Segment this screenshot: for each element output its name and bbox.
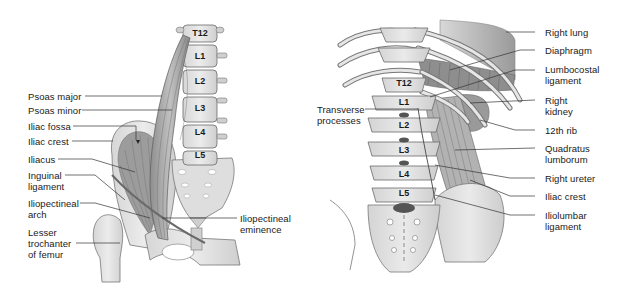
label-inguinal-ligament: Inguinal ligament	[28, 170, 64, 192]
label-12th-rib: 12th rib	[545, 125, 577, 136]
label-diaphragm: Diaphragm	[545, 45, 592, 56]
label-iliopectineal-arch: Iliopectineal arch	[28, 198, 79, 220]
vertebra-label-l4-right: L4	[399, 169, 410, 179]
label-transverse-processes: Transverse processes	[317, 104, 365, 126]
label-psoas-minor: Psoas minor	[28, 105, 81, 116]
vertebra-label-l5-right: L5	[399, 188, 410, 198]
label-iliac-fossa: Iliac fossa	[28, 121, 71, 132]
vertebra-label-t12: T12	[192, 28, 208, 38]
label-right-lung: Right lung	[545, 27, 588, 38]
label-iliac-crest: Iliac crest	[28, 136, 69, 147]
vertebra-label-l1: L1	[195, 51, 206, 61]
vertebra-label-l3-right: L3	[399, 145, 410, 155]
label-iliopectineal-eminence: Iliopectineal eminence	[240, 213, 291, 235]
label-iliac-crest-right: Iliac crest	[545, 191, 586, 202]
vertebra-label-l2: L2	[195, 76, 206, 86]
label-quadratus-lumborum: Quadratus lumborum	[545, 143, 590, 165]
label-lesser-trochanter: Lesser trochanter of femur	[28, 227, 71, 260]
vertebra-label-l3: L3	[195, 103, 206, 113]
vertebra-label-l5: L5	[195, 150, 206, 160]
left-anatomy-panel: T12 L1 L2 L3 L4 L5 Psoas major Psoas min…	[0, 0, 310, 295]
label-psoas-major: Psoas major	[28, 91, 81, 102]
label-iliolumbar-ligament: Iliolumbar ligament	[545, 210, 587, 232]
label-lumbocostal-ligament: Lumbocostal ligament	[545, 64, 599, 86]
vertebra-label-l2-right: L2	[399, 120, 410, 130]
label-right-kidney: Right kidney	[545, 95, 573, 117]
vertebra-label-t12-right: T12	[396, 78, 412, 88]
label-iliacus: Iliacus	[28, 154, 55, 165]
right-anatomy-panel: T12 L1 L2 L3 L4 L5 Transverse processes …	[310, 0, 623, 295]
vertebra-label-l4: L4	[195, 127, 206, 137]
label-right-ureter: Right ureter	[545, 173, 595, 184]
vertebra-label-l1-right: L1	[399, 97, 410, 107]
